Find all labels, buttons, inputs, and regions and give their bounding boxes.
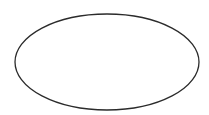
ellipse-shape [15,14,199,110]
diagram-canvas [0,0,209,115]
diagram-svg [0,0,209,115]
